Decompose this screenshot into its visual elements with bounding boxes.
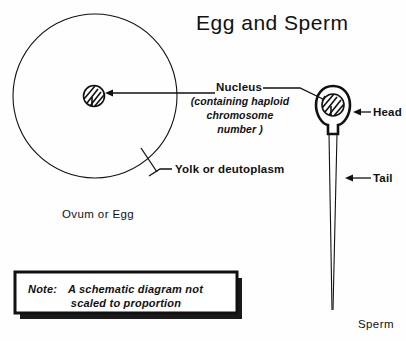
figure-title: Egg and Sperm	[196, 11, 348, 34]
head-leader	[353, 109, 371, 116]
nucleus-sublabel-line3: number )	[217, 123, 263, 135]
nucleus-sublabel-line2: chromosome	[207, 109, 274, 121]
tail-arrowhead	[345, 175, 353, 182]
yolk-leader	[141, 148, 172, 176]
egg-and-sperm-diagram: Egg and Sperm Nucleus	[0, 0, 406, 341]
nucleus-label: Nucleus	[216, 81, 262, 93]
note-prefix: Note:	[28, 283, 57, 295]
tail-label: Tail	[373, 172, 393, 184]
yolk-label: Yolk or deutoplasm	[175, 163, 284, 175]
sperm-label: Sperm	[358, 318, 394, 330]
head-label: Head	[373, 106, 402, 118]
diagram-canvas: Egg and Sperm Nucleus	[0, 0, 406, 341]
note-line-2: scaled to proportion	[71, 297, 181, 309]
head-arrowhead	[353, 109, 361, 116]
sperm-nucleus	[322, 94, 344, 117]
ovum-nucleus	[84, 86, 105, 108]
nucleus-arrowhead-left	[105, 90, 113, 97]
tail-leader	[345, 175, 371, 182]
nucleus-sublabel-line1: (containing haploid	[191, 95, 290, 107]
sperm-tail	[329, 134, 337, 310]
ovum-label: Ovum or Egg	[62, 208, 134, 220]
note-line-1: A schematic diagram not	[67, 283, 204, 295]
